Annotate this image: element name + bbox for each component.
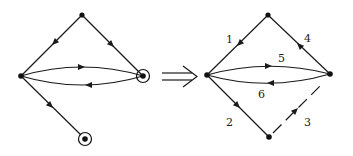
left-graph bbox=[18, 12, 149, 145]
right-node-bottom bbox=[266, 134, 272, 140]
right-node-right bbox=[327, 71, 333, 77]
left-edge-lower-curve bbox=[21, 76, 143, 85]
edge-label-3: 3 bbox=[304, 116, 311, 129]
edge-label-6: 6 bbox=[258, 88, 265, 101]
left-node-bottom-circled bbox=[79, 133, 92, 146]
arrow-head-icon bbox=[78, 64, 85, 70]
edge-label-2: 2 bbox=[226, 116, 233, 129]
arrow-head-icon bbox=[267, 80, 274, 86]
right-graph: 1 2 3 4 5 6 bbox=[204, 12, 333, 139]
edge-label-4: 4 bbox=[304, 32, 311, 45]
right-edge-6 bbox=[207, 74, 330, 83]
graph-transformation-diagram: 1 2 3 4 5 6 bbox=[0, 0, 353, 156]
arrow-head-icon bbox=[85, 82, 92, 88]
left-node-left bbox=[18, 73, 24, 79]
arrow-head-icon bbox=[265, 63, 272, 69]
right-node-top bbox=[265, 12, 270, 17]
edge-label-5: 5 bbox=[278, 52, 285, 65]
right-node-left bbox=[204, 72, 210, 78]
right-edge-5 bbox=[207, 66, 330, 75]
left-node-top bbox=[79, 12, 84, 17]
left-node-right-circled bbox=[137, 70, 150, 83]
edge-label-1: 1 bbox=[226, 33, 233, 46]
left-edge-upper-curve bbox=[21, 67, 143, 76]
implies-arrow-icon bbox=[162, 66, 197, 87]
